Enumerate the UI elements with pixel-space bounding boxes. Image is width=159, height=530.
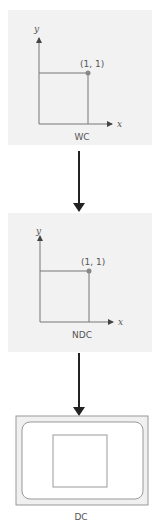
- ndc-point: [87, 269, 92, 274]
- arrow-ndc-to-dc: [73, 353, 85, 416]
- wc-caption: WC: [74, 132, 89, 142]
- device-viewport: [53, 435, 107, 487]
- ndc-point-label: (1, 1): [81, 257, 105, 267]
- ndc-panel: y x (1, 1) NDC: [8, 213, 152, 352]
- dc-device: DC: [16, 416, 148, 522]
- wc-x-label: x: [117, 119, 122, 129]
- wc-point: [86, 71, 91, 76]
- coordinate-pipeline-diagram: y x (1, 1) WC y x (1, 1) NDC DC: [0, 0, 159, 530]
- ndc-caption: NDC: [72, 330, 92, 340]
- ndc-y-label: y: [35, 226, 42, 236]
- arrow-wc-to-ndc: [73, 151, 85, 212]
- wc-point-label: (1, 1): [80, 59, 104, 69]
- ndc-x-label: x: [118, 317, 123, 327]
- wc-y-label: y: [33, 24, 40, 34]
- dc-caption: DC: [74, 512, 87, 522]
- wc-panel: y x (1, 1) WC: [8, 10, 152, 145]
